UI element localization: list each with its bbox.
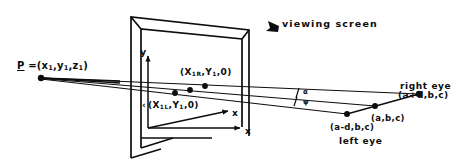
projection-rays: [41, 78, 419, 114]
angle-alpha-label: α: [303, 88, 308, 96]
xr-end: ,0): [217, 67, 232, 77]
point-left-eye-dot: [344, 111, 350, 117]
xl-mid: ,Y: [169, 100, 180, 110]
x-axis-label: x: [245, 126, 251, 136]
left-eye-coord-label: (a-d,b,c): [330, 122, 374, 132]
right-eye-coord-label: (a+d,b,c): [398, 90, 449, 100]
figure-canvas: viewing screen P =(x1,y1,z1) (X1R,Y1,0) …: [0, 0, 470, 167]
angle-psi-label: ψ: [303, 98, 309, 106]
point-P-eq: =(x: [25, 60, 49, 71]
ray-center: [41, 79, 375, 107]
xl-open: (X: [148, 100, 160, 110]
point-P-symbol: P: [17, 60, 25, 71]
point-P-dot: [38, 75, 44, 81]
point-screen-right-dot: [202, 83, 208, 89]
point-screen-mid-dot: [187, 87, 193, 93]
xr-sub: 1R: [192, 70, 202, 77]
y-axis-label: y: [140, 46, 147, 57]
z-axis-label: x: [232, 108, 238, 118]
screen-point-left-tick: ‹: [142, 100, 146, 110]
xl-sub: 1L: [160, 103, 169, 110]
point-P-label: P =(x1,y1,z1): [17, 60, 88, 72]
screen-point-right-label: (X1R,Y1,0): [180, 67, 232, 77]
midpoint-coord-label: (a,b,c): [371, 113, 405, 123]
xr-mid: ,Y: [201, 67, 212, 77]
z-axis: [148, 111, 228, 128]
angle-mark-upper: [296, 88, 299, 98]
point-screen-left-dot: [172, 90, 178, 96]
point-P-close: ): [83, 60, 88, 71]
angle-mark-lower: [294, 97, 297, 106]
point-mid-eye-dot: [372, 103, 378, 109]
viewing-screen-label: viewing screen: [282, 18, 378, 29]
xr-open: (X: [180, 67, 192, 77]
left-eye-label: left eye: [339, 136, 382, 146]
angle-marks: [294, 88, 299, 106]
point-P-mid-z: ,z: [69, 60, 79, 71]
xl-end: ,0): [184, 100, 199, 110]
viewing-screen-arrow: [266, 21, 279, 32]
screen-point-left-label: (X1L,Y1,0): [148, 100, 199, 110]
point-P-mid-y: ,y: [53, 60, 64, 71]
